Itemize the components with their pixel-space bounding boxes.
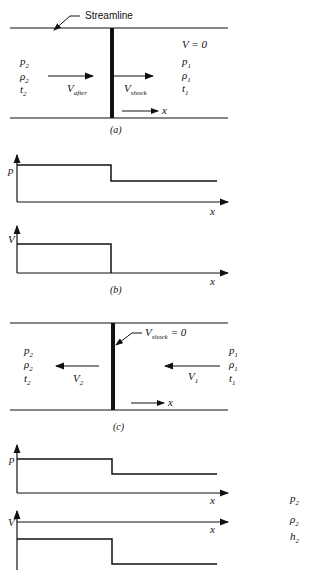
- svg-text:x: x: [209, 275, 215, 287]
- svg-text:x: x: [209, 205, 215, 217]
- svg-text:p: p: [8, 453, 15, 465]
- svg-text:V: V: [8, 233, 16, 245]
- shock-wave: [110, 28, 114, 118]
- svg-text:ρ2: ρ2: [289, 513, 299, 528]
- svg-text:p2: p2: [19, 55, 30, 70]
- svg-text:t2: t2: [20, 83, 27, 98]
- svg-text:t2: t2: [24, 372, 31, 387]
- svg-text:x: x: [167, 396, 173, 408]
- svg-text:Vshock= 0: Vshock= 0: [145, 326, 187, 341]
- stationary-shock: [111, 323, 115, 410]
- streamline-label: Streamline: [85, 10, 133, 21]
- svg-text:x: x: [161, 104, 167, 116]
- svg-text:t1: t1: [182, 82, 189, 97]
- svg-text:V = 0: V = 0: [182, 38, 207, 50]
- svg-text:t1: t1: [229, 372, 236, 387]
- svg-text:V2: V2: [73, 372, 84, 387]
- svg-text:V1: V1: [188, 370, 198, 385]
- svg-text:Vshock: Vshock: [124, 82, 148, 97]
- svg-text:(b): (b): [110, 284, 122, 296]
- svg-text:h2: h2: [290, 530, 300, 545]
- svg-text:p2: p2: [289, 492, 300, 507]
- svg-text:p2: p2: [23, 344, 34, 359]
- velocity-profile: [17, 244, 111, 273]
- svg-text:p: p: [7, 164, 14, 176]
- pressure-profile: [17, 165, 217, 181]
- panel-b: p x V x (b): [7, 155, 228, 296]
- svg-text:(c): (c): [113, 421, 125, 433]
- svg-text:Vafter: Vafter: [67, 82, 87, 97]
- svg-text:x: x: [209, 523, 215, 535]
- svg-text:p1: p1: [181, 55, 191, 70]
- svg-text:x: x: [209, 494, 215, 506]
- svg-text:(a): (a): [110, 124, 122, 136]
- panel-a: Streamline p2 ρ2 t2 Vafter Vshock V = 0 …: [10, 10, 228, 136]
- svg-text:p1: p1: [228, 344, 238, 359]
- svg-text:ρ2: ρ2: [23, 358, 33, 373]
- svg-text:V: V: [8, 516, 16, 528]
- panel-d: p x V x p2 ρ2 h2: [8, 445, 300, 570]
- svg-text:ρ1: ρ1: [228, 358, 238, 373]
- shock-wave-diagram: Streamline p2 ρ2 t2 Vafter Vshock V = 0 …: [0, 0, 314, 574]
- panel-c: Vshock= 0 p2 ρ2 t2 V2 V1 p1 ρ1 t1 x (c): [10, 323, 238, 433]
